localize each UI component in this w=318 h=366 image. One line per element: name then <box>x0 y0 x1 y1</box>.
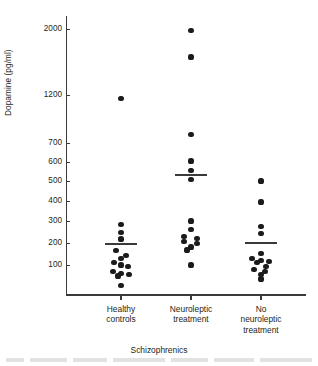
y-tick-label: 300 <box>20 217 62 225</box>
x-tick-mark <box>120 295 121 300</box>
data-point <box>123 253 128 258</box>
x-group-label: Neuroleptic treatment <box>151 304 231 325</box>
data-point <box>118 222 123 227</box>
data-point <box>188 54 193 59</box>
y-axis-title: Dopamine (pg/ml) <box>4 0 13 116</box>
dopamine-scatter-chart: Dopamine (pg/ml) 10020030040050060070012… <box>0 0 318 366</box>
x-tick-mark <box>260 295 261 300</box>
data-point <box>184 247 189 252</box>
data-point <box>118 236 123 241</box>
data-point <box>258 231 263 236</box>
caption-text-strip <box>0 356 318 366</box>
data-point <box>118 96 123 101</box>
y-tick-label-group: 10020030040050060070012002000 <box>20 0 62 300</box>
data-point <box>188 28 193 33</box>
data-point <box>251 267 256 272</box>
data-point <box>258 224 263 229</box>
data-point <box>111 260 116 265</box>
x-axis-line <box>66 294 306 296</box>
data-point <box>194 236 199 241</box>
data-point <box>181 234 186 239</box>
mean-line <box>245 242 277 244</box>
y-tick-label: 1200 <box>20 91 62 99</box>
data-point <box>181 239 186 244</box>
data-point <box>188 132 193 137</box>
data-point <box>258 199 263 204</box>
y-tick-label: 600 <box>20 158 62 166</box>
data-point <box>188 227 193 232</box>
data-point <box>258 178 263 183</box>
data-point <box>258 251 263 256</box>
data-point <box>118 262 123 267</box>
data-point <box>113 248 118 253</box>
y-tick-label: 400 <box>20 197 62 205</box>
data-point <box>115 273 120 278</box>
data-point <box>118 256 123 261</box>
x-axis-title: Schizophrenics <box>0 345 318 355</box>
data-point <box>188 168 193 173</box>
data-point <box>118 230 123 235</box>
data-point <box>254 260 259 265</box>
data-point <box>126 272 131 277</box>
y-tick-label: 700 <box>20 139 62 147</box>
data-point <box>258 276 263 281</box>
data-point <box>188 262 193 267</box>
mean-line <box>105 243 137 245</box>
y-tick-label: 500 <box>20 177 62 185</box>
data-point <box>118 283 123 288</box>
data-point <box>194 241 199 246</box>
y-axis-line <box>66 16 67 296</box>
data-point <box>188 218 193 223</box>
y-tick-label: 100 <box>20 261 62 269</box>
data-point <box>188 177 193 182</box>
data-point <box>125 264 130 269</box>
x-tick-mark <box>190 295 191 300</box>
x-group-label: Healthy controls <box>81 304 161 325</box>
caption-blurred-line <box>6 358 312 362</box>
y-tick-label: 200 <box>20 239 62 247</box>
data-point <box>263 264 268 269</box>
data-point <box>188 158 193 163</box>
x-group-label: No neuroleptic treatment <box>221 304 301 335</box>
mean-line <box>175 174 207 176</box>
y-tick-label: 2000 <box>20 25 62 33</box>
